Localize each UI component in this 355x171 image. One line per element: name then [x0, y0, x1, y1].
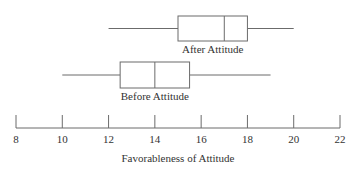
- tick-label: 18: [242, 133, 254, 145]
- tick-label: 16: [196, 133, 208, 145]
- tick-label: 8: [13, 133, 19, 145]
- iqr-box: [178, 16, 247, 41]
- box-plots: After AttitudeBefore Attitude: [62, 16, 293, 102]
- series-label: After Attitude: [182, 43, 244, 55]
- tick-label: 12: [103, 133, 114, 145]
- tick-label: 22: [335, 133, 346, 145]
- series-label: Before Attitude: [121, 90, 189, 102]
- tick-label: 14: [149, 133, 161, 145]
- tick-label: 20: [288, 133, 300, 145]
- tick-label: 10: [57, 133, 69, 145]
- box-plot-before-attitude: Before Attitude: [62, 62, 270, 102]
- box-plot-chart: After AttitudeBefore Attitude 8101214161…: [0, 0, 355, 171]
- x-axis: 810121416182022: [13, 115, 345, 145]
- box-plot-after-attitude: After Attitude: [109, 16, 294, 55]
- x-axis-label: Favorableness of Attitude: [121, 152, 234, 164]
